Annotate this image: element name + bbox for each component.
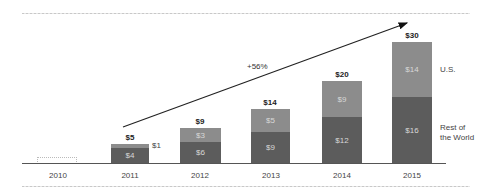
legend-row-line2: the World — [440, 133, 474, 142]
segment-row-2012: $6 — [180, 142, 221, 163]
total-label-2015: $30 — [392, 31, 432, 40]
chart-frame: +56% $5 $4 $1 $9 $3 $6 $14 $5 $9 $20 $9 … — [0, 0, 489, 194]
x-label-2010: 2010 — [38, 171, 78, 180]
x-label-2013: 2013 — [251, 171, 291, 180]
total-label-2011: $5 — [110, 133, 150, 142]
segment-us-2013: $5 — [251, 109, 290, 132]
x-label-2015: 2015 — [392, 171, 432, 180]
us-label-2011: $1 — [152, 141, 161, 150]
bar-2010-placeholder — [37, 157, 77, 162]
legend-row-line1: Rest of — [440, 123, 465, 132]
x-label-2014: 2014 — [322, 171, 362, 180]
growth-label: +56% — [247, 62, 268, 71]
bar-2015: $14 $16 — [392, 42, 432, 163]
x-label-2012: 2012 — [180, 171, 220, 180]
total-label-2012: $9 — [180, 117, 220, 126]
bar-2013: $5 $9 — [251, 109, 290, 163]
x-axis-line — [22, 163, 446, 164]
segment-row-2014: $12 — [322, 117, 362, 163]
x-label-2011: 2011 — [110, 171, 150, 180]
total-label-2013: $14 — [250, 98, 290, 107]
segment-us-2015: $14 — [392, 42, 432, 97]
segment-us-2012: $3 — [180, 128, 221, 142]
segment-row-2015: $16 — [392, 97, 432, 163]
segment-row-2011: $4 — [111, 148, 149, 163]
bar-2012: $3 $6 — [180, 128, 221, 163]
bar-2011: $4 — [111, 144, 149, 163]
segment-row-2013: $9 — [251, 132, 290, 163]
bar-2014: $9 $12 — [322, 81, 362, 163]
legend-us: U.S. — [440, 65, 456, 74]
total-label-2014: $20 — [322, 70, 362, 79]
segment-us-2014: $9 — [322, 81, 362, 117]
